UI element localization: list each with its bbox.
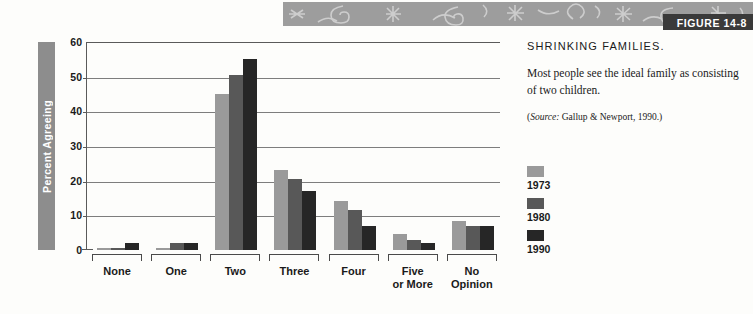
category-bracket — [151, 254, 201, 261]
category-bracket — [447, 254, 497, 261]
bar-group — [274, 43, 316, 250]
category-bracket — [388, 254, 438, 261]
bar[interactable] — [407, 240, 421, 250]
y-tick-label: 20 — [58, 175, 82, 187]
x-axis-category-label: No Opinion — [447, 265, 497, 290]
bar-group — [393, 43, 435, 250]
bar[interactable] — [229, 75, 243, 250]
y-tick-label: 0 — [58, 244, 82, 256]
bar[interactable] — [274, 170, 288, 250]
x-axis-category: Four — [329, 254, 379, 278]
bar-group — [334, 43, 376, 250]
bar-group — [215, 43, 257, 250]
chart-container: Percent Agreeing 0102030405060 NoneOneTw… — [0, 32, 510, 314]
side-text-block: SHRINKING FAMILIES. Most people see the … — [527, 40, 742, 122]
category-bracket — [269, 254, 319, 261]
source-label: Source: — [530, 112, 559, 122]
x-axis-category: One — [151, 254, 201, 278]
bar-group — [156, 43, 198, 250]
x-axis-category-label: One — [151, 265, 201, 278]
bar[interactable] — [348, 210, 362, 250]
legend-swatch — [527, 230, 544, 241]
x-axis-category-label: Two — [210, 265, 260, 278]
legend-item[interactable]: 1973 — [527, 166, 637, 191]
bar-group — [97, 43, 139, 250]
x-axis-category: No Opinion — [447, 254, 497, 290]
x-axis-category-label: Three — [269, 265, 319, 278]
legend-label: 1990 — [527, 243, 637, 255]
bar[interactable] — [97, 248, 111, 250]
legend-item[interactable]: 1990 — [527, 230, 637, 255]
y-axis-tick-labels: 0102030405060 — [58, 42, 82, 250]
category-bracket — [329, 254, 379, 261]
y-axis-title: Percent Agreeing — [38, 42, 55, 250]
bar[interactable] — [334, 201, 348, 250]
bar[interactable] — [421, 243, 435, 250]
x-axis-category: Two — [210, 254, 260, 278]
bar[interactable] — [452, 221, 466, 250]
bar[interactable] — [125, 243, 139, 250]
y-tick-label: 10 — [58, 209, 82, 221]
y-tick-label: 40 — [58, 105, 82, 117]
y-tick-label: 60 — [58, 36, 82, 48]
y-axis-title-label: Percent Agreeing — [41, 100, 53, 193]
x-axis-category: Three — [269, 254, 319, 278]
bar[interactable] — [243, 59, 257, 250]
x-axis-category: Five or More — [388, 254, 438, 290]
side-description: Most people see the ideal family as cons… — [527, 65, 742, 99]
legend-label: 1973 — [527, 179, 637, 191]
side-source: (Source: Gallup & Newport, 1990.) — [527, 112, 742, 122]
legend: 197319801990 — [527, 166, 637, 262]
legend-item[interactable]: 1980 — [527, 198, 637, 223]
bar[interactable] — [362, 226, 376, 250]
legend-swatch — [527, 198, 544, 209]
bar[interactable] — [184, 243, 198, 250]
bar[interactable] — [480, 226, 494, 250]
bar[interactable] — [302, 191, 316, 250]
bars-layer — [87, 43, 500, 250]
y-tick-label: 50 — [58, 71, 82, 83]
bar[interactable] — [215, 94, 229, 250]
figure-number-badge: FIGURE 14-8 — [663, 14, 753, 30]
category-bracket — [92, 254, 142, 261]
x-axis-categories: NoneOneTwoThreeFourFive or MoreNo Opinio… — [86, 254, 500, 312]
x-axis-category-label: Four — [329, 265, 379, 278]
category-bracket — [210, 254, 260, 261]
x-axis-category: None — [92, 254, 142, 278]
bar[interactable] — [156, 248, 170, 250]
plot-area — [86, 42, 500, 250]
legend-label: 1980 — [527, 211, 637, 223]
bar[interactable] — [393, 234, 407, 250]
bar[interactable] — [288, 179, 302, 250]
source-rest: Gallup & Newport, 1990.) — [559, 112, 662, 122]
legend-swatch — [527, 166, 544, 177]
side-title: SHRINKING FAMILIES. — [527, 40, 742, 52]
x-axis-category-label: Five or More — [388, 265, 438, 290]
bar-group — [452, 43, 494, 250]
bar[interactable] — [466, 226, 480, 250]
bar[interactable] — [170, 243, 184, 250]
bar[interactable] — [111, 248, 125, 250]
x-axis-category-label: None — [92, 265, 142, 278]
y-tick-label: 30 — [58, 140, 82, 152]
